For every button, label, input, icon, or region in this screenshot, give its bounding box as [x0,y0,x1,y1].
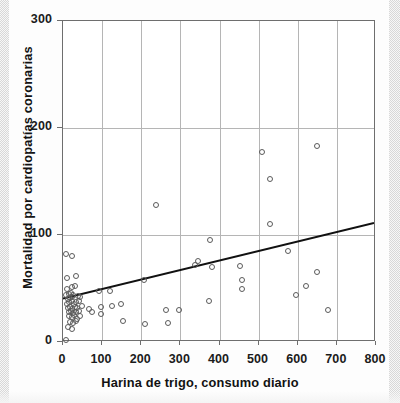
data-point [107,288,113,294]
y-tick-mark [57,20,62,21]
x-tick-mark [62,341,63,345]
chart-figure: 01002003004005006007008000100200300 Hari… [0,0,400,403]
data-point [314,143,320,149]
x-tick-mark [219,341,220,345]
y-tick-mark [57,127,62,128]
page-edge-texture-right [389,0,400,403]
data-point [142,321,148,327]
data-point [237,263,243,269]
x-tick-mark [297,341,298,345]
page-edge-fade-bottom [0,391,400,403]
data-point [153,202,159,208]
data-point [120,318,126,324]
data-point [293,292,299,298]
x-tick-mark [140,341,141,345]
x-tick-mark [179,341,180,345]
data-point [73,273,79,279]
data-point [69,253,75,259]
data-point [207,237,213,243]
plot-area [62,20,375,341]
x-tick-mark [258,341,259,345]
x-tick-mark [101,341,102,345]
data-point [69,326,75,332]
data-point [63,337,69,343]
data-point [267,221,273,227]
scatter-points [63,21,374,340]
y-tick-mark [57,234,62,235]
data-point [141,277,147,283]
data-point [209,264,215,270]
data-point [98,304,104,310]
data-point [163,307,169,313]
data-point [239,277,245,283]
data-point [285,248,291,254]
data-point [118,301,124,307]
data-point [303,283,309,289]
data-point [325,307,331,313]
data-point [176,307,182,313]
data-point [314,269,320,275]
data-point [73,318,79,324]
x-tick-label: 800 [345,352,400,366]
data-point [89,309,95,315]
data-point [64,275,70,281]
data-point [259,149,265,155]
data-point [96,288,102,294]
data-point [239,286,245,292]
y-axis-label: Mortalidad por cardiopatías coronarias [20,18,35,318]
data-point [72,283,78,289]
data-point [109,303,115,309]
y-tick-label: 0 [6,333,52,347]
data-point [267,176,273,182]
data-point [98,311,104,317]
x-axis-label: Harina de trigo, consumo diario [0,375,400,390]
y-tick-mark [57,341,62,342]
x-tick-mark [375,341,376,345]
data-point [206,298,212,304]
data-point [165,320,171,326]
data-point [195,258,201,264]
x-tick-mark [336,341,337,345]
